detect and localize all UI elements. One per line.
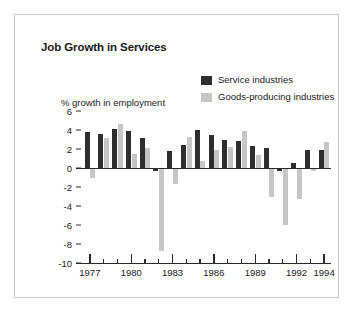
x-axis-tick	[117, 259, 118, 263]
y-axis-tick	[76, 111, 81, 112]
bar-goods-1988	[242, 131, 247, 168]
y-axis-tick-label: 6	[50, 106, 72, 117]
bar-goods-1990	[269, 168, 274, 197]
x-axis-tick	[282, 259, 283, 263]
x-axis-tick	[144, 259, 145, 263]
bar-service-1988	[236, 141, 241, 168]
y-axis-tick	[76, 130, 81, 131]
y-axis-tick-label: -6	[50, 220, 72, 231]
x-axis-tick	[227, 259, 228, 263]
bar-goods-1987	[228, 147, 233, 168]
x-axis-tick	[172, 254, 173, 263]
bar-goods-1983	[173, 168, 178, 184]
y-axis-tick	[76, 187, 81, 188]
legend-label-goods-producing-industries: Goods-producing industries	[218, 92, 334, 102]
bar-goods-1981	[145, 148, 150, 168]
bar-service-1978	[98, 134, 103, 168]
y-axis-tick	[76, 244, 81, 245]
bar-service-1986	[209, 135, 214, 168]
chart-title: Job Growth in Services	[41, 41, 167, 53]
zero-line	[76, 168, 331, 169]
bar-goods-1986	[214, 150, 219, 168]
bar-service-1981	[140, 138, 145, 168]
bar-service-1984	[181, 145, 186, 168]
x-axis-tick	[199, 259, 200, 263]
x-axis-tick-label: 1994	[314, 267, 335, 278]
y-axis-tick-label: -10	[50, 258, 72, 269]
bar-goods-1994	[324, 142, 329, 168]
x-axis-baseline	[76, 263, 331, 264]
y-axis-tick-label: 2	[50, 144, 72, 155]
legend-swatch-goods-producing-industries	[201, 93, 212, 102]
x-axis-tick	[296, 254, 297, 263]
bar-service-1994	[319, 150, 324, 168]
y-axis-tick	[76, 206, 81, 207]
x-axis-tick-label: 1983	[162, 267, 183, 278]
x-axis-tick	[158, 259, 159, 263]
bar-service-1985	[195, 130, 200, 168]
x-axis-tick	[323, 254, 324, 263]
legend-item-service-industries: Service industries	[201, 73, 339, 87]
bar-goods-1992	[297, 168, 302, 199]
x-axis-tick	[241, 259, 242, 263]
bar-service-1989	[250, 146, 255, 168]
y-axis-tick-label: 4	[50, 125, 72, 136]
y-axis-tick	[76, 149, 81, 150]
bar-service-1990	[264, 148, 269, 168]
bar-service-1980	[126, 131, 131, 168]
x-axis-tick	[268, 259, 269, 263]
x-axis-tick	[255, 254, 256, 263]
x-axis-tick	[103, 259, 104, 263]
x-axis-tick-label: 1980	[121, 267, 142, 278]
legend-swatch-service-industries	[201, 76, 212, 85]
bar-goods-1991	[283, 168, 288, 225]
x-axis-tick	[89, 254, 90, 263]
bar-service-1983	[167, 151, 172, 168]
x-axis-tick-label: 1989	[245, 267, 266, 278]
bar-goods-1980	[132, 154, 137, 168]
x-axis-tick	[186, 259, 187, 263]
bar-service-1987	[222, 140, 227, 168]
x-axis-tick-label: 1986	[203, 267, 224, 278]
bar-goods-1984	[187, 137, 192, 168]
x-axis-tick	[131, 254, 132, 263]
bar-service-1979	[112, 129, 117, 168]
x-axis-tick-label: 1992	[286, 267, 307, 278]
y-axis-title: % growth in employment	[61, 97, 165, 108]
y-axis-tick-label: -2	[50, 182, 72, 193]
legend-label-service-industries: Service industries	[218, 75, 293, 85]
bar-goods-1978	[104, 138, 109, 168]
x-axis-tick-label: 1977	[79, 267, 100, 278]
y-axis-tick-label: -8	[50, 239, 72, 250]
x-axis-tick	[310, 259, 311, 263]
legend-item-goods-producing-industries: Goods-producing industries	[201, 90, 339, 104]
bar-goods-1985	[200, 161, 205, 168]
chart-legend: Service industries Goods-producing indus…	[201, 73, 339, 107]
y-axis-tick-label: 0	[50, 163, 72, 174]
bar-service-1993	[305, 150, 310, 168]
bar-goods-1979	[118, 124, 123, 168]
x-axis-tick	[213, 254, 214, 263]
y-axis-tick-label: -4	[50, 201, 72, 212]
bar-goods-1977	[90, 168, 95, 178]
bar-goods-1989	[256, 155, 261, 168]
plot-area: 6420-2-4-6-8-10 197719801983198619891992…	[83, 111, 331, 263]
bar-service-1977	[85, 132, 90, 168]
chart-figure: Job Growth in Services Service industrie…	[14, 14, 339, 298]
y-axis-tick	[76, 225, 81, 226]
bar-goods-1982	[159, 168, 164, 251]
